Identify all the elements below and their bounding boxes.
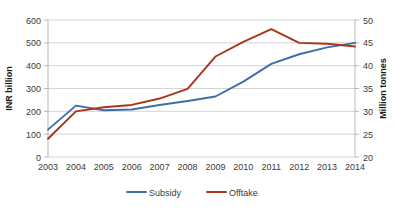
y2tick-label: 25 <box>363 130 373 140</box>
y2-axis-title: Million tonnes <box>378 58 388 119</box>
legend-label-subsidy: Subsidy <box>149 188 182 198</box>
ytick-label: 200 <box>26 107 41 117</box>
y-axis-title: INR billion <box>4 66 14 111</box>
y2tick-label: 20 <box>363 153 373 163</box>
xtick-label: 2006 <box>122 162 142 172</box>
xtick-label: 2012 <box>289 162 309 172</box>
xtick-label: 2009 <box>205 162 225 172</box>
ytick-label: 600 <box>26 16 41 26</box>
chart-legend: Subsidy Offtake <box>127 188 258 198</box>
ytick-label: 0 <box>36 153 41 163</box>
right-axis <box>355 20 359 157</box>
ytick-label: 300 <box>26 84 41 94</box>
xtick-label: 2004 <box>66 162 86 172</box>
chart-container: 600 500 400 300 200 100 0 50 45 40 35 30… <box>0 0 394 212</box>
y2tick-label: 40 <box>363 61 373 71</box>
legend-label-offtake: Offtake <box>229 188 258 198</box>
line-chart: 600 500 400 300 200 100 0 50 45 40 35 30… <box>0 0 394 212</box>
xtick-label: 2005 <box>94 162 114 172</box>
x-axis-tick-labels: 2003200420052006200720082009201020112012… <box>38 162 365 172</box>
xtick-label: 2011 <box>262 162 281 172</box>
left-axis-tick-labels: 600 500 400 300 200 100 0 <box>26 16 41 163</box>
xtick-label: 2003 <box>38 162 58 172</box>
y2tick-label: 50 <box>363 16 373 26</box>
y2tick-label: 45 <box>363 38 373 48</box>
xtick-label: 2014 <box>345 162 365 172</box>
ytick-label: 100 <box>26 130 41 140</box>
y2tick-label: 30 <box>363 107 373 117</box>
ytick-label: 400 <box>26 61 41 71</box>
y2tick-label: 35 <box>363 84 373 94</box>
xtick-label: 2007 <box>150 162 170 172</box>
left-axis <box>44 20 48 157</box>
xtick-label: 2008 <box>178 162 198 172</box>
right-axis-tick-labels: 50 45 40 35 30 25 20 <box>363 16 373 163</box>
ytick-label: 500 <box>26 38 41 48</box>
xtick-label: 2010 <box>233 162 253 172</box>
xtick-label: 2013 <box>317 162 337 172</box>
